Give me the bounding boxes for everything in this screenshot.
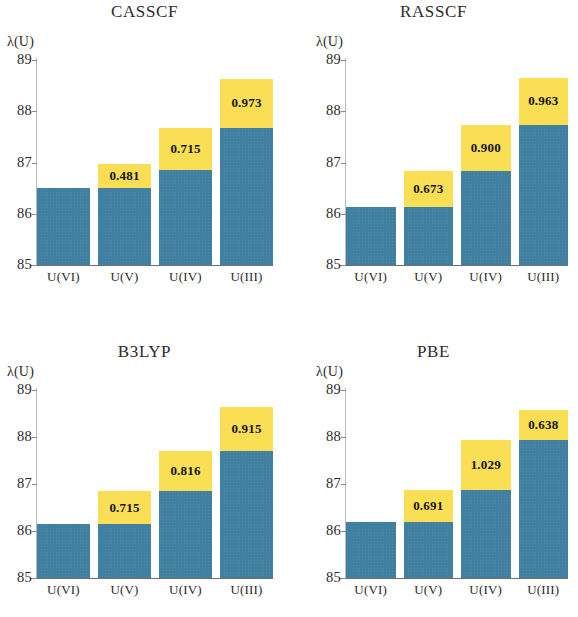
x-tick-label: U(VI) <box>37 269 90 285</box>
bar-uiii: 0.638 <box>519 390 569 578</box>
bar-uv: 0.691 <box>404 390 454 578</box>
bar-value-label: 0.973 <box>231 95 261 111</box>
y-tick-mark <box>32 265 37 266</box>
x-tick-label: U(III) <box>519 269 569 285</box>
x-axis-line <box>339 578 568 579</box>
plot-area: 85868788890.7150.8160.915U(VI)U(V)U(IV)U… <box>37 390 273 578</box>
bar-value-label: 0.481 <box>109 168 139 184</box>
x-tick-label: U(V) <box>98 269 151 285</box>
x-axis-labels: U(VI)U(V)U(IV)U(III) <box>37 269 273 285</box>
y-tick-label: 89 <box>17 381 32 398</box>
bar-uvi <box>37 390 90 578</box>
bar-segment-yellow: 0.963 <box>519 78 569 125</box>
y-tick-label: 86 <box>326 522 341 539</box>
x-tick-label: U(III) <box>220 582 273 598</box>
bar-uvi <box>346 390 396 578</box>
y-axis-label: λ(U) <box>316 364 343 380</box>
bar-uiv: 1.029 <box>461 390 511 578</box>
figure-grid: CASSCFλ(U)85868788890.4810.7150.973U(VI)… <box>0 0 578 617</box>
bar-uvi <box>37 60 90 265</box>
y-tick-label: 87 <box>17 154 32 171</box>
bar-segment-blue <box>220 451 273 578</box>
x-axis-labels: U(VI)U(V)U(IV)U(III) <box>346 269 568 285</box>
bar-uv: 0.715 <box>98 390 151 578</box>
x-axis-labels: U(VI)U(V)U(IV)U(III) <box>37 582 273 598</box>
y-tick-label: 86 <box>17 522 32 539</box>
y-tick-label: 85 <box>326 256 341 273</box>
bar-segment-blue <box>461 490 511 578</box>
x-tick-label: U(IV) <box>159 269 212 285</box>
bar-uiv: 0.715 <box>159 60 212 265</box>
bar-value-label: 1.029 <box>471 457 501 473</box>
plot-area: 85868788890.4810.7150.973U(VI)U(V)U(IV)U… <box>37 60 273 265</box>
bar-segment-blue <box>159 491 212 578</box>
plot-area: 85868788890.6911.0290.638U(VI)U(V)U(IV)U… <box>346 390 568 578</box>
x-tick-label: U(V) <box>404 582 454 598</box>
y-tick-mark <box>341 578 346 579</box>
bar-group: 0.6730.9000.963 <box>346 60 568 265</box>
bar-segment-blue <box>461 171 511 265</box>
y-tick-label: 88 <box>326 428 341 445</box>
x-tick-label: U(V) <box>404 269 454 285</box>
panel-title: B3LYP <box>0 342 289 362</box>
bar-segment-blue <box>37 188 90 265</box>
chart-panel-rasscf: RASSCFλ(U)85868788890.6730.9000.963U(VI)… <box>289 0 578 310</box>
bar-segment-blue <box>346 522 396 578</box>
bar-value-label: 0.673 <box>413 181 443 197</box>
bar-segment-yellow: 0.691 <box>404 490 454 522</box>
bar-value-label: 0.715 <box>170 141 200 157</box>
bar-segment-yellow: 0.816 <box>159 451 212 490</box>
x-axis-line <box>30 265 273 266</box>
bar-segment-yellow: 0.915 <box>220 407 273 451</box>
x-tick-label: U(III) <box>519 582 569 598</box>
x-tick-label: U(VI) <box>346 269 396 285</box>
chart-panel-b3lyp: B3LYPλ(U)85868788890.7150.8160.915U(VI)U… <box>0 310 289 617</box>
bar-segment-yellow: 0.900 <box>461 125 511 171</box>
bar-value-label: 0.638 <box>528 417 558 433</box>
y-tick-label: 89 <box>326 51 341 68</box>
x-tick-label: U(III) <box>220 269 273 285</box>
bar-uvi <box>346 60 396 265</box>
y-axis-label: λ(U) <box>7 364 34 380</box>
bar-segment-yellow: 0.715 <box>159 128 212 171</box>
y-tick-label: 88 <box>326 102 341 119</box>
bar-segment-blue <box>346 207 396 265</box>
bar-uiii: 0.973 <box>220 60 273 265</box>
plot-area: 85868788890.6730.9000.963U(VI)U(V)U(IV)U… <box>346 60 568 265</box>
y-tick-mark <box>32 578 37 579</box>
chart-panel-pbe: PBEλ(U)85868788890.6911.0290.638U(VI)U(V… <box>289 310 578 617</box>
bar-uv: 0.673 <box>404 60 454 265</box>
bar-uiii: 0.963 <box>519 60 569 265</box>
x-tick-label: U(IV) <box>461 582 511 598</box>
bar-value-label: 0.963 <box>528 93 558 109</box>
panel-title: PBE <box>289 342 578 362</box>
x-tick-label: U(VI) <box>37 582 90 598</box>
bar-value-label: 0.816 <box>170 463 200 479</box>
bar-uiv: 0.900 <box>461 60 511 265</box>
panel-title: RASSCF <box>289 2 578 22</box>
y-tick-label: 86 <box>326 205 341 222</box>
bar-value-label: 0.915 <box>231 421 261 437</box>
bar-uiii: 0.915 <box>220 390 273 578</box>
bar-group: 0.7150.8160.915 <box>37 390 273 578</box>
bar-value-label: 0.715 <box>109 500 139 516</box>
bar-group: 0.4810.7150.973 <box>37 60 273 265</box>
y-axis-label: λ(U) <box>316 34 343 50</box>
bar-value-label: 0.691 <box>413 498 443 514</box>
bar-segment-yellow: 0.973 <box>220 79 273 128</box>
y-axis-label: λ(U) <box>7 34 34 50</box>
x-tick-label: U(V) <box>98 582 151 598</box>
bar-segment-blue <box>98 188 151 265</box>
y-tick-label: 87 <box>326 475 341 492</box>
bar-segment-blue <box>519 440 569 578</box>
y-tick-label: 89 <box>326 381 341 398</box>
y-tick-label: 88 <box>17 102 32 119</box>
bar-segment-blue <box>159 170 212 265</box>
bar-segment-yellow: 1.029 <box>461 440 511 490</box>
bar-segment-yellow: 0.481 <box>98 164 151 189</box>
x-tick-label: U(IV) <box>461 269 511 285</box>
y-tick-label: 89 <box>17 51 32 68</box>
bar-uv: 0.481 <box>98 60 151 265</box>
bar-uiv: 0.816 <box>159 390 212 578</box>
bar-group: 0.6911.0290.638 <box>346 390 568 578</box>
